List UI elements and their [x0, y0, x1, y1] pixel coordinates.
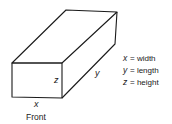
legend-var-y: y — [122, 65, 128, 75]
legend-var-z: z — [122, 77, 128, 87]
label-y: y — [94, 68, 100, 78]
top-face — [12, 10, 117, 63]
label-x: x — [33, 99, 39, 109]
legend-eq-z: = height — [130, 78, 159, 87]
legend: x = width y = length z = height — [122, 53, 159, 87]
box-diagram: z y x Front x = width y = length z = hei… — [0, 0, 172, 124]
front-caption: Front — [26, 112, 46, 122]
legend-eq-x: = width — [130, 54, 156, 63]
label-z: z — [53, 75, 59, 85]
legend-var-x: x — [122, 53, 128, 63]
legend-eq-y: = length — [130, 66, 159, 75]
